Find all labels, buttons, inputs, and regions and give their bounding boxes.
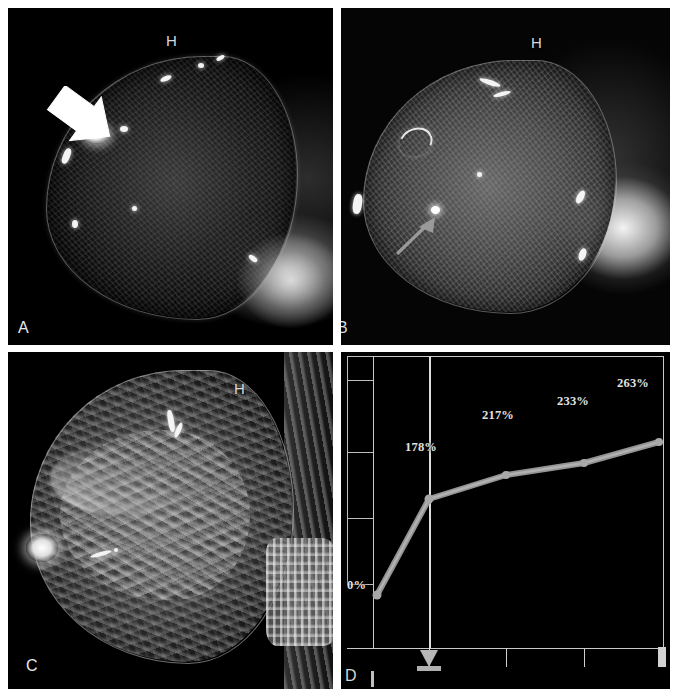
panel-c-letter: C xyxy=(26,657,38,675)
panel-d-chart[interactable]: 0% 178% 217% 233% 263% D xyxy=(341,352,670,689)
panel-seam-vertical xyxy=(333,0,337,694)
chart-point-label-4: 263% xyxy=(617,376,649,391)
panel-a-vessel-2 xyxy=(132,206,137,211)
chart-plot-area: 0% 178% 217% 233% 263% D xyxy=(341,352,670,689)
panel-a-letter: A xyxy=(18,319,29,337)
panel-c-roi-overlay[interactable] xyxy=(266,538,333,646)
panel-c-orientation-marker: H xyxy=(234,380,245,397)
chart-point-label-0: 0% xyxy=(347,578,366,593)
panel-c[interactable]: H C xyxy=(8,352,333,689)
panel-b-vessel-5 xyxy=(477,172,482,177)
panel-a-vessel-1 xyxy=(72,220,78,228)
figure-container: H A H B xyxy=(0,0,678,694)
panel-a-orientation-marker: H xyxy=(166,32,177,49)
panel-b[interactable]: H B xyxy=(341,8,670,345)
chart-enhancement-curve xyxy=(341,352,670,689)
chart-point-label-1: 178% xyxy=(405,440,437,455)
panel-d-letter: D xyxy=(345,667,357,685)
panel-b-pointer-arrow xyxy=(393,213,443,257)
panel-b-letter: B xyxy=(341,319,348,337)
panel-a-skin-marker-4 xyxy=(198,63,204,68)
panel-a[interactable]: H A xyxy=(8,8,333,345)
panel-a-skin-marker-2 xyxy=(120,126,128,132)
panel-a-pointer-arrow xyxy=(46,86,120,148)
panel-c-vessel-4 xyxy=(114,548,118,552)
chart-point-label-2: 217% xyxy=(482,408,514,423)
panel-b-orientation-marker: H xyxy=(531,34,542,51)
chart-point-label-3: 233% xyxy=(557,394,589,409)
panel-c-nipple xyxy=(26,534,58,562)
panel-seam-horizontal xyxy=(0,345,678,349)
